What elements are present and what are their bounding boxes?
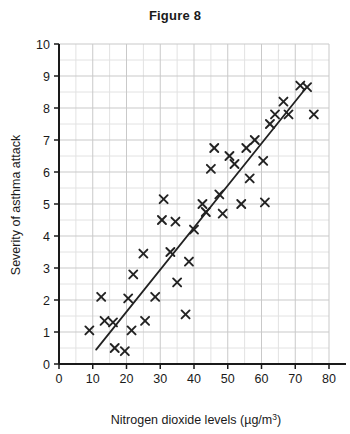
- x-axis-label: Nitrogen dioxide levels (µg/m3): [111, 412, 281, 427]
- data-point: [124, 294, 132, 302]
- data-point: [242, 144, 250, 152]
- y-tick-label: 1: [43, 326, 50, 340]
- x-tick-label: 10: [86, 372, 100, 386]
- x-tick-label: 70: [288, 372, 302, 386]
- y-tick-label: 4: [43, 230, 50, 244]
- data-point: [271, 110, 279, 118]
- data-point: [128, 326, 136, 334]
- y-tick-label: 7: [43, 134, 50, 148]
- data-point: [182, 310, 190, 318]
- y-tick-label: 5: [43, 198, 50, 212]
- data-point: [85, 326, 93, 334]
- x-tick-label: 30: [153, 372, 167, 386]
- y-tick-label: 6: [43, 166, 50, 180]
- x-axis-tick-labels: 01020304050607080: [56, 372, 336, 386]
- y-tick-label: 8: [43, 102, 50, 116]
- x-tick-label: 20: [120, 372, 134, 386]
- x-tick-label: 40: [187, 372, 201, 386]
- x-tick-label: 60: [255, 372, 269, 386]
- data-point: [171, 218, 179, 226]
- scatter-plot: 01020304050607080 012345678910 Nitrogen …: [0, 0, 350, 434]
- y-tick-label: 3: [43, 262, 50, 276]
- data-point: [231, 160, 239, 168]
- x-tick-label: 80: [322, 372, 336, 386]
- data-point: [210, 144, 218, 152]
- data-point: [259, 157, 267, 165]
- y-axis-tick-labels: 012345678910: [36, 38, 50, 372]
- y-tick-label: 2: [43, 294, 50, 308]
- x-tick-label: 50: [221, 372, 235, 386]
- data-point: [279, 98, 287, 106]
- x-tick-label: 0: [56, 372, 63, 386]
- y-axis-label: Severity of asthma attack: [9, 134, 23, 275]
- data-point: [261, 198, 269, 206]
- y-tick-label: 10: [36, 38, 50, 52]
- data-point: [101, 317, 109, 325]
- data-point: [141, 317, 149, 325]
- data-point: [160, 195, 168, 203]
- data-point: [129, 270, 137, 278]
- y-tick-label: 9: [43, 70, 50, 84]
- data-point: [185, 258, 193, 266]
- data-point: [310, 110, 318, 118]
- data-point: [219, 210, 227, 218]
- data-point: [246, 174, 254, 182]
- y-tick-label: 0: [43, 358, 50, 372]
- figure-container: Figure 8 01020304050607080 012345678910 …: [0, 0, 350, 434]
- axis-ticks: [54, 44, 329, 369]
- trend-line: [96, 89, 305, 350]
